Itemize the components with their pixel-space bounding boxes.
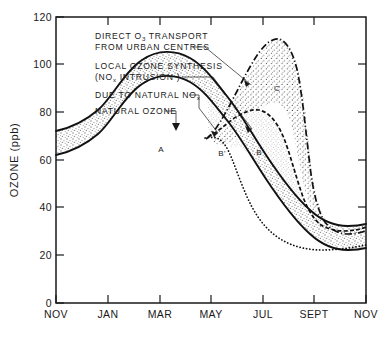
- ozone-seasonal-chart: 120 100 80 60 40 20 0 NOV JAN MAR MAY JU…: [0, 0, 383, 342]
- y-tick-40: 40: [40, 201, 52, 213]
- y-tick-60: 60: [40, 154, 52, 166]
- y-axis-title: OZONE (ppb): [8, 123, 20, 197]
- annot-nox-line1: DUE TO NATURAL NO: [95, 90, 197, 100]
- annot-local-line2a: (NO: [95, 72, 113, 82]
- svg-text:DIRECT O3 TRANSPORT: DIRECT O3 TRANSPORT: [95, 31, 208, 42]
- annot-local-line2b: INTRUSION ): [117, 72, 181, 82]
- region-label-a: A: [158, 145, 164, 154]
- annot-natural-ozone: NATURAL OZONE: [95, 106, 177, 116]
- x-tick-jan: JAN: [97, 308, 118, 320]
- annot-direct-line1b: TRANSPORT: [146, 31, 209, 41]
- annot-local-line1: LOCAL OZONE SYNTHESIS: [95, 61, 223, 71]
- x-tick-jul: JUL: [253, 308, 273, 320]
- y-tick-80: 80: [40, 106, 52, 118]
- region-label-b: B: [256, 148, 262, 157]
- x-tick-nov-start: NOV: [44, 308, 68, 320]
- x-tick-may: MAY: [199, 308, 222, 320]
- svg-text:DUE TO NATURAL NOx: DUE TO NATURAL NOx: [95, 90, 201, 101]
- annot-direct-line1: DIRECT O: [95, 31, 142, 41]
- x-tick-nov-end: NOV: [354, 308, 378, 320]
- y-tick-120: 120: [33, 11, 52, 23]
- x-tick-sept: SEPT: [299, 308, 328, 320]
- region-label-bprime: B': [218, 149, 226, 158]
- y-tick-20: 20: [40, 249, 52, 261]
- y-tick-100: 100: [33, 58, 52, 70]
- region-label-c: C: [274, 84, 280, 93]
- svg-text:(NOx INTRUSION ): (NOx INTRUSION ): [95, 72, 180, 83]
- x-tick-mar: MAR: [148, 308, 173, 320]
